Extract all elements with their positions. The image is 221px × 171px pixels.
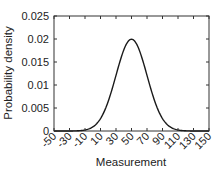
plot-area — [54, 16, 209, 131]
density-curve — [54, 39, 209, 131]
x-tick-label: 150 — [192, 130, 213, 151]
normal-pdf-line — [54, 39, 209, 131]
chart: 00.0050.010.0150.020.025 -50-30-10103050… — [0, 0, 221, 171]
x-tick-label: -10 — [70, 130, 90, 150]
y-tick-label: 0.015 — [21, 56, 49, 68]
y-tick-label: 0.02 — [28, 33, 49, 45]
y-tick-label: 0.025 — [21, 10, 49, 22]
plot-frame — [54, 16, 209, 131]
x-axis-label: Measurement — [96, 156, 167, 168]
y-tick-label: 0.005 — [21, 102, 49, 114]
y-axis-label: Probability density — [2, 26, 14, 120]
y-tick-label: 0.01 — [28, 79, 49, 91]
y-axis: 00.0050.010.0150.020.025 — [21, 10, 209, 137]
x-axis: -50-30-101030507090110130150 — [39, 16, 214, 151]
